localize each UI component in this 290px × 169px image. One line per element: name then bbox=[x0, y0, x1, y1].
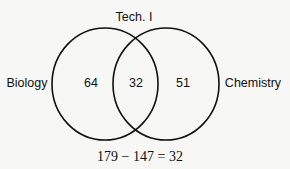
biology-label: Biology bbox=[7, 76, 49, 90]
intersection-count: 32 bbox=[129, 76, 143, 90]
chemistry-label: Chemistry bbox=[225, 76, 282, 90]
venn-diagram: Tech. I Biology Chemistry 64 32 51 179 −… bbox=[0, 0, 290, 169]
chemistry-only-count: 51 bbox=[176, 76, 190, 90]
top-label: Tech. I bbox=[116, 10, 153, 24]
equation: 179 − 147 = 32 bbox=[97, 149, 183, 164]
biology-only-count: 64 bbox=[84, 76, 98, 90]
